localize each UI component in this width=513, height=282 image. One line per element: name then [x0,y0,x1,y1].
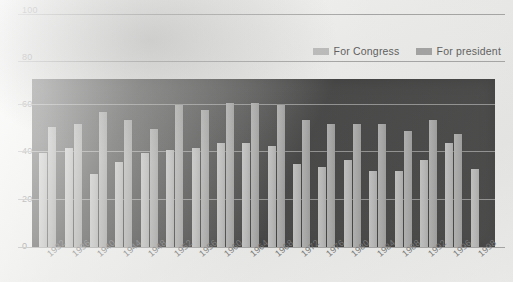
x-axis-tick-1980: 1980 [340,249,365,282]
x-axis-tick-1992: 1992 [416,249,441,282]
chart-legend: For Congress For president [313,45,501,57]
x-axis-tick-1960: 1960 [213,249,238,282]
bar-1944-president[interactable] [124,120,132,247]
x-axis-tick-1944: 1944 [111,249,136,282]
legend-swatch-president [416,48,432,55]
bar-group-1980 [340,79,365,247]
x-axis-tick-1948: 1948 [137,249,162,282]
bar-1940-president[interactable] [99,112,107,247]
bar-group-1984 [365,79,390,247]
bar-group-1944 [111,79,136,247]
bar-1998-congress[interactable] [471,169,479,247]
legend-label-congress: For Congress [334,45,400,57]
bar-1932-congress[interactable] [39,153,47,247]
bar-1952-congress[interactable] [166,150,174,247]
bar-1988-president[interactable] [404,131,412,247]
bar-group-1976 [314,79,339,247]
x-axis-tick-1988: 1988 [390,249,415,282]
bar-group-1988 [390,79,415,247]
bar-1976-president[interactable] [327,124,335,247]
bar-1980-president[interactable] [353,124,361,247]
bar-1964-president[interactable] [251,103,259,247]
bar-1936-president[interactable] [74,124,82,247]
bar-1960-congress[interactable] [217,143,225,247]
bar-1944-congress[interactable] [115,162,123,247]
x-axis-tick-1956: 1956 [187,249,212,282]
x-axis-tick-1964: 1964 [238,249,263,282]
x-axis-tick-1940: 1940 [86,249,111,282]
bar-group-1992 [416,79,441,247]
bar-1972-president[interactable] [302,120,310,247]
bar-1932-president[interactable] [48,127,56,247]
plot-area [32,79,495,247]
bar-group-1936 [60,79,85,247]
bar-group-1996 [441,79,466,247]
bar-chart: 100 80 60 40 20 0 1932193619401944194819… [0,0,513,282]
bar-1960-president[interactable] [226,103,234,247]
bar-group-1956 [187,79,212,247]
bar-1996-president[interactable] [454,134,462,247]
legend-item-congress[interactable]: For Congress [313,45,400,57]
tick-stub-40 [18,151,32,152]
bar-1980-congress[interactable] [344,160,352,247]
bar-group-1964 [238,79,263,247]
bar-group-1972 [289,79,314,247]
x-axis-tick-1976: 1976 [314,249,339,282]
legend-swatch-congress [313,48,329,55]
bar-group-1932 [35,79,60,247]
gridline-80 [18,61,505,62]
bar-1992-congress[interactable] [420,160,428,247]
bar-group-1968 [264,79,289,247]
x-axis-tick-1996: 1996 [441,249,466,282]
bar-1984-congress[interactable] [369,171,377,247]
bar-group-1998 [467,79,492,247]
x-axis-tick-1968: 1968 [264,249,289,282]
bar-1964-congress[interactable] [242,143,250,247]
x-axis-tick-1936: 1936 [60,249,85,282]
x-axis-tick-1952: 1952 [162,249,187,282]
x-axis-tick-1972: 1972 [289,249,314,282]
bar-1956-congress[interactable] [192,148,200,247]
tick-stub-60 [18,104,32,105]
bar-1968-president[interactable] [277,105,285,247]
bar-1984-president[interactable] [378,124,386,247]
bar-1948-president[interactable] [150,129,158,247]
bar-1992-president[interactable] [429,120,437,247]
bar-1940-congress[interactable] [90,174,98,247]
bar-1972-congress[interactable] [293,164,301,247]
x-axis-labels: 1932193619401944194819521956196019641968… [32,249,495,282]
y-axis-tick-0: 0 [22,241,27,251]
bar-group-1960 [213,79,238,247]
bar-1952-president[interactable] [175,105,183,247]
bar-1976-congress[interactable] [318,167,326,247]
legend-item-president[interactable]: For president [416,45,501,57]
bar-1968-congress[interactable] [268,146,276,247]
bar-1936-congress[interactable] [65,148,73,247]
bar-1996-congress[interactable] [445,143,453,247]
x-axis-tick-1932: 1932 [35,249,60,282]
bar-group-1948 [137,79,162,247]
bar-group-1940 [86,79,111,247]
tick-stub-20 [18,199,32,200]
bar-1948-congress[interactable] [141,153,149,247]
bar-groups [32,79,495,247]
legend-label-president: For president [437,45,501,57]
x-axis-tick-1984: 1984 [365,249,390,282]
bar-group-1952 [162,79,187,247]
x-axis-tick-1998: 1998 [467,249,492,282]
bar-1988-congress[interactable] [395,171,403,247]
gridline-100 [18,14,505,15]
bar-1956-president[interactable] [201,110,209,247]
